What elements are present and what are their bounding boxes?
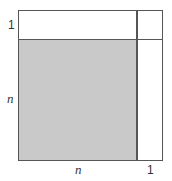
shaded-n-by-n-square [19, 39, 137, 160]
vertical-divider [136, 10, 138, 161]
label-top-strip-height: 1 [8, 19, 15, 31]
label-left-n: n [7, 93, 14, 105]
horizontal-divider [18, 39, 163, 41]
label-bottom-n: n [75, 164, 82, 176]
label-right-strip-width: 1 [147, 164, 154, 176]
